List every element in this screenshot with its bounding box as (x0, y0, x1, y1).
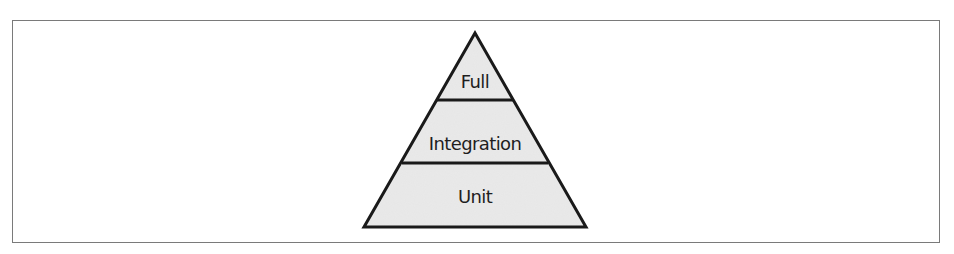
test-pyramid-diagram: Full Integration Unit (0, 0, 954, 254)
tier-label-full: Full (461, 71, 489, 92)
tier-label-integration: Integration (429, 133, 522, 154)
tier-label-unit: Unit (458, 186, 493, 207)
